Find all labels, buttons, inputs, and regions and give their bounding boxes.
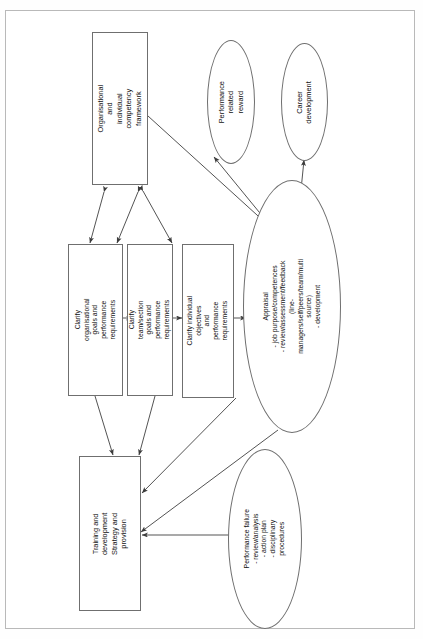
node-performance-related-reward[interactable]: Performance related reward <box>207 40 255 164</box>
diagram-page: Organisational and individual competency… <box>0 0 423 639</box>
node-competency-framework[interactable]: Organisational and individual competency… <box>92 32 148 185</box>
node-clarify-individual-label: Clarify individual objectives and perfor… <box>186 296 229 346</box>
edge-framework-org <box>90 192 104 243</box>
node-career-development[interactable]: Career development <box>281 43 328 161</box>
node-competency-framework-label: Organisational and individual competency… <box>96 82 143 136</box>
edge-org-training <box>95 396 113 455</box>
node-performance-failure[interactable]: Performance failure - review/analysis - … <box>228 449 302 629</box>
node-performance-related-reward-label: Performance related reward <box>217 79 245 125</box>
node-clarify-team[interactable]: Clarify team/section goals and performan… <box>127 244 173 396</box>
node-clarify-organisational[interactable]: Clarify organisational goals and perform… <box>68 244 123 396</box>
node-clarify-individual[interactable]: Clarify individual objectives and perfor… <box>182 244 234 398</box>
edge-individual-training <box>142 398 236 493</box>
node-clarify-organisational-label: Clarify organisational goals and perform… <box>74 294 117 347</box>
node-performance-failure-label: Performance failure - review/analysis - … <box>243 503 286 575</box>
node-appraisal-label: Appraisal - job purpose/competences - re… <box>262 259 323 355</box>
edge-framework-individual <box>143 191 172 243</box>
node-clarify-team-label: Clarify team/section goals and performan… <box>128 298 171 342</box>
node-training-development-label: Training and development Strategy and pr… <box>91 504 129 564</box>
edge-framework-team <box>117 192 138 243</box>
node-training-development[interactable]: Training and development Strategy and pr… <box>79 456 141 611</box>
node-appraisal[interactable]: Appraisal - job purpose/competences - re… <box>243 180 341 433</box>
node-career-development-label: Career development <box>295 80 314 125</box>
edge-team-training <box>139 396 155 455</box>
